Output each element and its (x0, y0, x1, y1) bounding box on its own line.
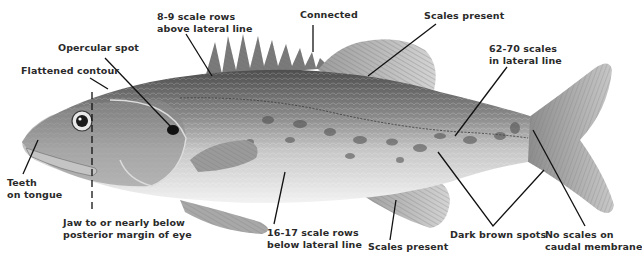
leader-flattened-contour (90, 78, 108, 89)
label-line: on tongue (7, 189, 62, 201)
label-scale-rows-below: 16-17 scale rows below lateral line (267, 227, 362, 251)
label-opercular-spot: Opercular spot (58, 42, 139, 54)
label-line: Jaw to or nearly below (63, 217, 192, 229)
label-line: 62-70 scales (489, 43, 562, 55)
label-line: Scales present (424, 10, 504, 22)
label-jaw: Jaw to or nearly below posterior margin … (63, 217, 192, 241)
label-scales-present-top: Scales present (424, 10, 504, 22)
label-line: Flattened contour (21, 65, 119, 77)
label-flattened-contour: Flattened contour (21, 65, 119, 77)
label-scales-present-bottom: Scales present (368, 241, 448, 253)
label-line: caudal membrane (545, 241, 642, 253)
label-line: below lateral line (267, 239, 362, 251)
label-line: above lateral line (157, 23, 253, 35)
label-line: Opercular spot (58, 42, 139, 54)
label-teeth-on-tongue: Teeth on tongue (7, 177, 62, 201)
label-connected: Connected (300, 9, 358, 21)
pelvic-fin (180, 200, 268, 234)
label-scale-rows-above: 8-9 scale rows above lateral line (157, 11, 253, 35)
opercular-spot (167, 125, 179, 135)
caudal-fin (525, 63, 614, 213)
label-dark-brown-spots: Dark brown spots (450, 229, 546, 241)
label-line: posterior margin of eye (63, 229, 192, 241)
label-line: Scales present (368, 241, 448, 253)
label-no-scales-caudal: No scales on caudal membrane (545, 229, 642, 253)
label-line: Dark brown spots (450, 229, 546, 241)
label-line: 16-17 scale rows (267, 227, 362, 239)
label-line: Teeth (7, 177, 62, 189)
label-line: in lateral line (489, 55, 562, 67)
label-line: No scales on (545, 229, 642, 241)
label-lateral-line-scales: 62-70 scales in lateral line (489, 43, 562, 67)
label-line: Connected (300, 9, 358, 21)
label-line: 8-9 scale rows (157, 11, 253, 23)
leader-scale-rows-above (186, 34, 212, 76)
